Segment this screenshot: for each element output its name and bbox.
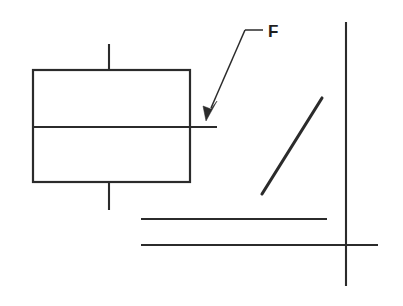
force-label: F [268,22,278,41]
arrowhead-icon [203,101,217,121]
diagram-drawing: F [0,0,403,306]
leader-diagonal [211,30,245,108]
diagram-canvas: F [0,0,403,306]
diagonal-segment [262,98,322,194]
